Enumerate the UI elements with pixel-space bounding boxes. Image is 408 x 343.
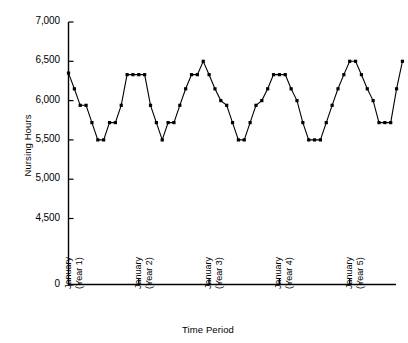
data-point — [254, 104, 257, 107]
data-point — [155, 121, 158, 124]
data-point — [172, 121, 175, 124]
data-point — [401, 60, 404, 63]
data-point — [161, 138, 164, 141]
data-point — [231, 121, 234, 124]
data-point — [90, 121, 93, 124]
data-point — [67, 71, 70, 74]
data-point — [336, 87, 339, 90]
data-point — [225, 104, 228, 107]
data-point — [360, 73, 363, 76]
data-point — [383, 121, 386, 124]
data-point — [243, 138, 246, 141]
data-point — [307, 138, 310, 141]
data-point — [331, 104, 334, 107]
data-point — [184, 87, 187, 90]
data-point — [389, 121, 392, 124]
data-point — [149, 104, 152, 107]
data-point — [278, 73, 281, 76]
data-series-markers — [67, 60, 404, 142]
data-point — [137, 73, 140, 76]
data-point — [377, 121, 380, 124]
data-point — [96, 138, 99, 141]
data-point — [108, 121, 111, 124]
data-point — [131, 73, 134, 76]
data-point — [313, 138, 316, 141]
data-point — [395, 87, 398, 90]
data-point — [125, 73, 128, 76]
data-point — [325, 121, 328, 124]
data-point — [208, 73, 211, 76]
data-point — [354, 60, 357, 63]
data-point — [348, 60, 351, 63]
data-point — [102, 138, 105, 141]
data-point — [219, 99, 222, 102]
data-point — [79, 104, 82, 107]
data-point — [84, 104, 87, 107]
data-point — [120, 104, 123, 107]
plot-area — [0, 0, 408, 343]
data-point — [372, 99, 375, 102]
data-point — [143, 73, 146, 76]
data-series-line — [69, 61, 403, 140]
y-axis-ticks — [69, 22, 74, 285]
data-point — [166, 121, 169, 124]
axis-lines — [69, 22, 397, 285]
data-point — [272, 73, 275, 76]
data-point — [342, 73, 345, 76]
data-point — [260, 99, 263, 102]
data-point — [366, 87, 369, 90]
data-point — [284, 73, 287, 76]
data-point — [196, 73, 199, 76]
data-point — [249, 121, 252, 124]
data-point — [202, 60, 205, 63]
data-point — [178, 104, 181, 107]
data-point — [213, 87, 216, 90]
data-point — [301, 121, 304, 124]
data-point — [237, 138, 240, 141]
data-point — [295, 99, 298, 102]
data-point — [114, 121, 117, 124]
data-point — [266, 87, 269, 90]
data-point — [319, 138, 322, 141]
data-point — [290, 87, 293, 90]
nursing-hours-line-chart: Nursing Hours 7,000 6,500 6,000 5,500 5,… — [0, 0, 408, 343]
data-point — [73, 87, 76, 90]
data-point — [190, 73, 193, 76]
